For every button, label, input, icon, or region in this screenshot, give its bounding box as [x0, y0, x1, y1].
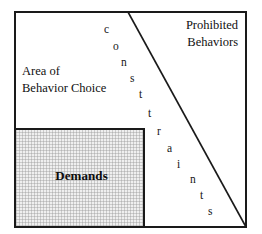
- prohibited-behaviors-label: Prohibited Behaviors: [150, 17, 238, 51]
- constraint-letter-4: t: [139, 89, 142, 101]
- behavior-choice-diagram: Demands Area of Behavior Choice Prohibit…: [0, 0, 262, 234]
- area-label-line-2: Behavior Choice: [22, 80, 106, 97]
- constraint-letter-7: a: [167, 143, 172, 155]
- constraint-letter-8: i: [177, 159, 180, 171]
- constraint-letter-10: t: [200, 190, 203, 202]
- area-of-behavior-choice-label: Area of Behavior Choice: [22, 63, 106, 97]
- prohibited-label-line-2: Behaviors: [150, 34, 238, 51]
- constraint-letter-11: s: [208, 206, 212, 218]
- constraint-letter-5: t: [148, 108, 151, 120]
- demands-label: Demands: [16, 168, 147, 184]
- prohibited-label-line-1: Prohibited: [150, 17, 238, 34]
- constraint-letter-3: s: [130, 73, 134, 85]
- constraint-letter-2: n: [121, 57, 127, 69]
- constraint-letter-0: c: [104, 24, 109, 36]
- constraint-letter-9: n: [190, 174, 196, 186]
- constraint-letter-1: o: [113, 41, 119, 53]
- constraint-letter-6: r: [157, 126, 161, 138]
- area-label-line-1: Area of: [22, 63, 106, 80]
- demands-region: Demands: [14, 128, 145, 228]
